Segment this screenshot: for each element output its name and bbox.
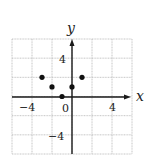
y-axis-label: y: [66, 20, 76, 36]
data-point: [39, 75, 44, 80]
axes: [12, 39, 131, 154]
data-point: [49, 84, 54, 89]
x-axis-label: x: [136, 88, 144, 104]
x-tick-label: −4: [19, 101, 35, 114]
data-point: [79, 75, 84, 80]
x-tick-label: 0: [62, 102, 69, 115]
data-point: [59, 94, 64, 99]
data-point: [69, 84, 74, 89]
x-axis-arrow-icon: [124, 95, 131, 100]
y-tick-label: 4: [59, 53, 66, 66]
x-tick-label: 4: [109, 101, 116, 114]
data-points: [39, 75, 84, 99]
coordinate-plane: x y −4 0 4 4 −4: [0, 0, 148, 165]
y-axis-arrow-icon: [70, 39, 75, 46]
y-tick-label: −4: [48, 130, 64, 143]
